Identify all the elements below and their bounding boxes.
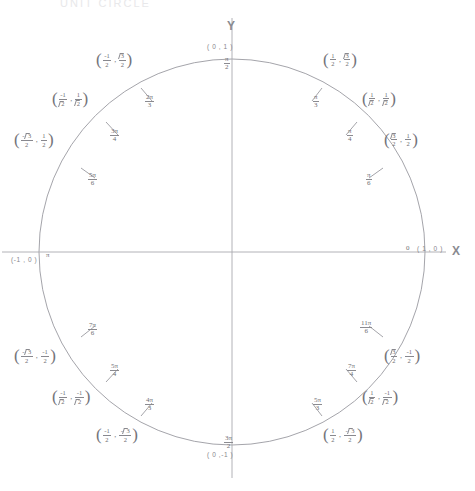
comma-separator: , [69, 393, 73, 401]
y-value: 12 [383, 91, 389, 107]
comma-separator: , [377, 393, 381, 401]
x-value: 32 [391, 348, 397, 364]
angle-denominator: 4 [110, 136, 119, 143]
x-value: 12 [330, 427, 336, 443]
angle-denominator: 6 [360, 328, 372, 335]
angle-label-pi-over-3: π3 [313, 94, 319, 110]
coordinate-pair-pi-over-3: ( 12 , 32 ) [323, 52, 357, 68]
coordinate-pair-5pi-over-6: ( -32 , 12 ) [14, 132, 54, 149]
comma-separator: , [399, 352, 403, 360]
coordinate-pair-5pi-over-4: ( -12 , -12 ) [52, 389, 91, 406]
angle-label-4pi-over-3: 4π3 [145, 397, 154, 413]
coordinate-label-0-1: ( 0 , 1 ) [207, 44, 233, 51]
angle-denominator: 4 [110, 371, 119, 378]
angle-label-0: 0 [406, 245, 410, 252]
coordinate-label-0-minus1: ( 0 ,-1 ) [207, 452, 233, 459]
comma-separator: , [377, 95, 381, 103]
angle-label-pi-over-2: π2 [224, 56, 230, 72]
angle-label-3pi-over-4: 3π4 [110, 128, 119, 144]
angle-denominator: 6 [88, 180, 97, 187]
y-value: -32 [344, 427, 356, 444]
coordinate-label-1-0: ( 1 , 0 ) [417, 246, 443, 253]
y-axis-label: Y [227, 20, 235, 32]
x-value: -12 [59, 389, 68, 406]
coordinate-pair-pi-over-4: ( 12 , 12 ) [362, 91, 396, 107]
x-value: 12 [369, 91, 375, 107]
y-value: 32 [344, 52, 350, 68]
angle-label-2pi-over-3: 2π3 [145, 94, 154, 110]
angle-label-pi-over-6: π6 [366, 172, 372, 188]
x-axis-label: X [452, 245, 460, 257]
y-value: 12 [75, 91, 81, 107]
angle-denominator: 4 [347, 371, 356, 378]
angle-label-pi-over-4: π4 [347, 128, 353, 144]
x-value: 32 [391, 132, 397, 148]
coordinate-pair-3pi-over-4: ( -12 , 12 ) [52, 91, 88, 108]
angle-denominator: 3 [145, 405, 154, 412]
angle-label-5pi-over-4: 5π4 [110, 363, 119, 379]
y-value: 12 [405, 132, 411, 148]
angle-denominator: 6 [88, 330, 97, 337]
coordinate-pair-11pi-over-6: ( 32 , -12 ) [384, 348, 420, 365]
y-value: -12 [405, 348, 414, 365]
comma-separator: , [399, 136, 403, 144]
x-value: -32 [21, 348, 33, 365]
angle-denominator: 6 [366, 180, 372, 187]
y-value: -12 [75, 389, 84, 406]
x-value: -12 [103, 427, 112, 444]
angle-denominator: 2 [224, 443, 233, 450]
coordinate-pair-7pi-over-6: ( -32 , -12 ) [14, 348, 56, 365]
coordinate-pair-7pi-over-4: ( 12 , -12 ) [362, 389, 398, 406]
angle-label-11pi-over-6: 11π6 [360, 320, 372, 336]
comma-separator: , [338, 56, 342, 64]
x-value: 12 [369, 389, 375, 405]
coordinate-pair-4pi-over-3: ( -12 , -32 ) [96, 427, 138, 444]
coordinate-pair-5pi-over-3: ( 12 , -32 ) [323, 427, 363, 444]
angle-label-7pi-over-4: 7π4 [347, 363, 356, 379]
x-value: -32 [21, 132, 33, 149]
coordinate-pair-pi-over-6: ( 32 , 12 ) [384, 132, 418, 148]
coordinate-label-minus1-0: (-1 , 0 ) [11, 257, 37, 264]
angle-denominator: 3 [313, 405, 322, 412]
angle-denominator: 2 [224, 64, 230, 71]
comma-separator: , [35, 136, 39, 144]
angle-label-3pi-over-2: 3π2 [224, 435, 233, 451]
angle-label-7pi-over-6: 7π6 [88, 322, 97, 338]
angle-denominator: 3 [145, 102, 154, 109]
y-value: 32 [119, 52, 125, 68]
y-value: -12 [383, 389, 392, 406]
unit-circle-diagram: UNIT CIRCLE X Y ( 0 , [0, 0, 475, 491]
angle-label-5pi-over-6: 5π6 [88, 172, 97, 188]
x-value: -12 [59, 91, 68, 108]
comma-separator: , [113, 56, 117, 64]
comma-separator: , [35, 352, 39, 360]
y-value: -12 [41, 348, 50, 365]
angle-label-pi: π [46, 252, 50, 259]
x-value: -12 [103, 52, 112, 69]
comma-separator: , [338, 431, 342, 439]
y-value: -32 [119, 427, 131, 444]
comma-separator: , [113, 431, 117, 439]
y-value: 12 [41, 132, 47, 148]
circle-canvas [0, 0, 475, 491]
x-value: 12 [330, 52, 336, 68]
angle-denominator: 3 [313, 102, 319, 109]
angle-label-5pi-over-3: 5π3 [313, 397, 322, 413]
coordinate-pair-2pi-over-3: ( -12 , 32 ) [96, 52, 132, 69]
angle-denominator: 4 [347, 136, 353, 143]
comma-separator: , [69, 95, 73, 103]
